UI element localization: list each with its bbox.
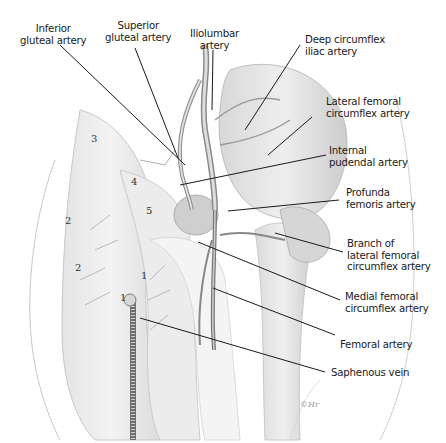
label-inferior-gluteal-artery: Inferior gluteal artery xyxy=(20,23,86,46)
muscle-number-2-lower: 2 xyxy=(75,262,81,273)
label-deep-circumflex-iliac-artery: Deep circumflex iliac artery xyxy=(305,34,385,57)
muscle-number-1-right: 1 xyxy=(141,270,147,281)
label-branch-lateral-femoral-circumflex: Branch of lateral femoral circumflex art… xyxy=(347,238,431,273)
artist-signature: ©Hr xyxy=(300,400,319,409)
label-lateral-femoral-circumflex-artery: Lateral femoral circumflex artery xyxy=(326,96,410,119)
label-iliolumbar-artery: Iliolumbar artery xyxy=(190,28,239,51)
muscle-number-1-left: 1 xyxy=(120,292,126,303)
muscle-number-3: 3 xyxy=(91,133,97,144)
muscle-number-5: 5 xyxy=(146,205,152,216)
muscle-number-4: 4 xyxy=(131,176,137,187)
body-outline-left xyxy=(30,160,60,440)
label-superior-gluteal-artery: Superior gluteal artery xyxy=(105,20,171,43)
label-saphenous-vein: Saphenous vein xyxy=(331,367,409,379)
label-femoral-artery: Femoral artery xyxy=(340,339,412,351)
leader-iliolumbar xyxy=(212,50,213,110)
muscle-number-2-upper: 2 xyxy=(65,215,71,226)
acetabulum xyxy=(174,195,218,235)
label-medial-femoral-circumflex-artery: Medial femoral circumflex artery xyxy=(345,291,429,314)
label-profunda-femoris-artery: Profunda femoris artery xyxy=(346,187,416,210)
label-internal-pudendal-artery: Internal pudendal artery xyxy=(329,145,408,168)
leader-superior-gluteal xyxy=(135,48,178,158)
internal-iliac-branch xyxy=(180,80,200,210)
